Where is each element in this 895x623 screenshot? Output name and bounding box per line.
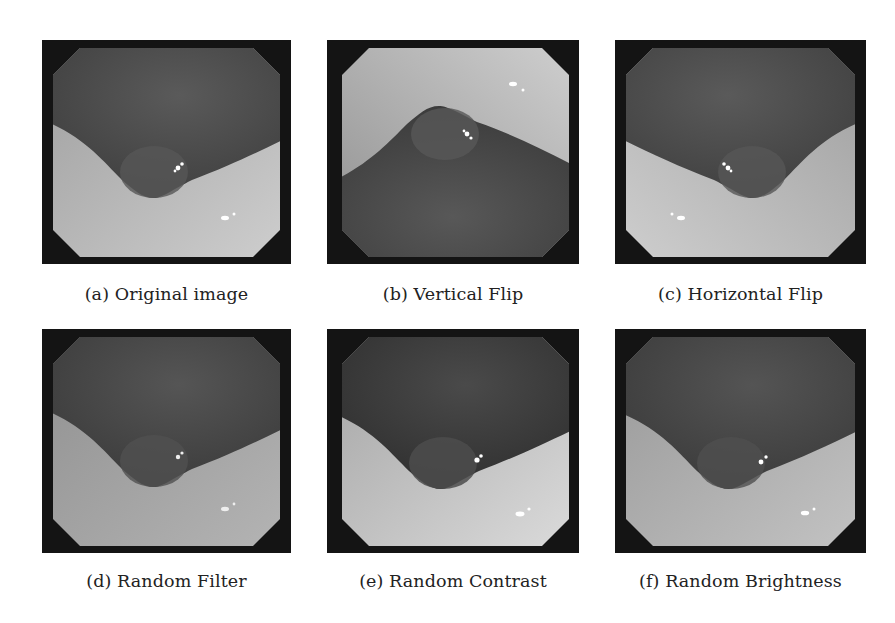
panel-random-filter [42, 329, 291, 553]
endoscopy-image-random-brightness [615, 329, 866, 553]
panel-random-brightness [615, 329, 866, 553]
endoscopy-image-random-contrast [327, 329, 579, 553]
endoscopy-image-vertical-flip [327, 40, 579, 264]
panel-horizontal-flip [615, 40, 866, 264]
figure-page: { "figure": { "panels": [ {"id": "a", "l… [0, 0, 895, 623]
panel-original-image [42, 40, 291, 264]
caption-random-filter: (d) Random Filter [42, 571, 291, 591]
endoscopy-image-original [42, 40, 291, 264]
caption-vertical-flip: (b) Vertical Flip [327, 284, 579, 304]
panel-vertical-flip [327, 40, 579, 264]
panel-random-contrast [327, 329, 579, 553]
endoscopy-image-random-filter [42, 329, 291, 553]
caption-random-brightness: (f) Random Brightness [615, 571, 866, 591]
caption-random-contrast: (e) Random Contrast [327, 571, 579, 591]
caption-horizontal-flip: (c) Horizontal Flip [615, 284, 866, 304]
endoscopy-image-horizontal-flip [615, 40, 866, 264]
caption-original-image: (a) Original image [42, 284, 291, 304]
